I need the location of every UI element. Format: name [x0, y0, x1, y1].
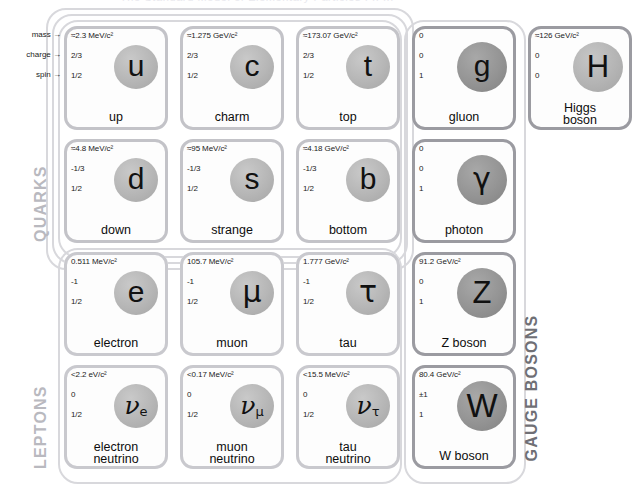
particle-name-line1: bottom — [329, 223, 367, 237]
particle-name: top — [296, 111, 400, 123]
particle-cell-z-boson[interactable]: 91.2 GeV/c²01ZZ boson — [412, 252, 516, 356]
particle-mass-value: 0 — [419, 32, 423, 49]
particle-charge-value: 0 — [187, 391, 234, 408]
particle-spin-value: 1/2 — [187, 72, 237, 89]
particle-disc: ντ — [346, 384, 390, 428]
particle-disc: Z — [457, 268, 507, 318]
particle-name-line1: Z boson — [441, 336, 486, 350]
particle-stats: <2.2 eV/c²01/2 — [71, 371, 107, 428]
particle-symbol-muon: μ — [242, 277, 261, 307]
particle-spin-value: 1/2 — [71, 411, 107, 428]
particle-name-line2: neutrino — [64, 453, 168, 465]
particle-name-line1: strange — [211, 223, 253, 237]
particle-symbol-subscript: τ — [372, 404, 380, 419]
particle-name: electronneutrino — [64, 441, 168, 465]
particle-stats: ≈4.8 MeV/c²-1/31/2 — [71, 145, 113, 202]
particle-charge-value: 0 — [419, 165, 423, 182]
particle-name-line1: photon — [445, 223, 483, 237]
particle-stats: 1.777 GeV/c²-11/2 — [303, 258, 349, 315]
annotation-charge: charge → — [26, 50, 61, 59]
particle-mass-value: ≈126 GeV/c² — [535, 32, 579, 49]
particle-charge-value: -1 — [187, 278, 233, 295]
particle-cell-muon-neutrino[interactable]: <0.17 MeV/c²01/2νμmuonneutrino — [180, 365, 284, 469]
particle-mass-value: ≈1.275 GeV/c² — [187, 32, 237, 49]
particle-name-line1: tau — [339, 336, 356, 350]
particle-cell-muon[interactable]: 105.7 MeV/c²-11/2μmuon — [180, 252, 284, 356]
particle-mass-value: ≈2.3 MeV/c² — [71, 32, 113, 49]
particle-disc: c — [230, 45, 274, 89]
particle-cell-down[interactable]: ≈4.8 MeV/c²-1/31/2ddown — [64, 139, 168, 243]
particle-name-line1: down — [101, 223, 131, 237]
particle-cell-charm[interactable]: ≈1.275 GeV/c²2/31/2ccharm — [180, 26, 284, 130]
clipped-header-strip: The Standard Model of Elementary Particl… — [0, 0, 609, 12]
particle-name: tau — [296, 337, 400, 349]
particle-stats: ≈126 GeV/c²00 — [535, 32, 579, 89]
particle-stats: ≈2.3 MeV/c²2/31/2 — [71, 32, 113, 89]
particle-stats: ≈95 MeV/c²-1/31/2 — [187, 145, 227, 202]
particle-symbol-electron-neutrino: νe — [124, 393, 147, 418]
particle-mass-value: 105.7 MeV/c² — [187, 258, 233, 275]
particle-stats: <15.5 MeV/c²01/2 — [303, 371, 350, 428]
particle-spin-value: 1/2 — [71, 72, 113, 89]
particle-disc: μ — [230, 271, 274, 315]
particle-charge-value: -1 — [303, 278, 349, 295]
particle-cell-photon[interactable]: 001γphoton — [412, 139, 516, 243]
particle-charge-value: -1/3 — [71, 165, 113, 182]
particle-mass-value: 80.4 GeV/c² — [419, 371, 461, 388]
particle-spin-value: 1/2 — [303, 185, 349, 202]
particle-symbol-bottom: b — [360, 164, 377, 194]
annotation-mass: mass → — [32, 30, 61, 39]
particle-mass-value: ≈173.07 GeV/c² — [303, 32, 358, 49]
particle-disc: t — [346, 45, 390, 89]
particle-stats: 91.2 GeV/c²01 — [419, 258, 461, 315]
particle-symbol-strange: s — [245, 164, 260, 194]
clipped-header-text: The Standard Model of Elementary Particl… — [120, 0, 394, 3]
particle-spin-value: 1/2 — [187, 298, 233, 315]
particle-cell-strange[interactable]: ≈95 MeV/c²-1/31/2sstrange — [180, 139, 284, 243]
particle-cell-gluon[interactable]: 001ggluon — [412, 26, 516, 130]
family-label-leptons-text: LEPTONS — [32, 369, 50, 469]
particle-disc: νe — [114, 384, 158, 428]
particle-cell-electron-neutrino[interactable]: <2.2 eV/c²01/2νeelectronneutrino — [64, 365, 168, 469]
particle-mass-value: ≈4.8 MeV/c² — [71, 145, 113, 162]
particle-symbol-top: t — [364, 51, 372, 81]
particle-symbol-up: u — [128, 51, 145, 81]
particle-stats: 001 — [419, 32, 423, 89]
particle-mass-value: 91.2 GeV/c² — [419, 258, 461, 275]
particle-cell-electron[interactable]: 0.511 MeV/c²-11/2eelectron — [64, 252, 168, 356]
particle-spin-value: 1 — [419, 72, 423, 89]
particle-charge-value: -1/3 — [187, 165, 227, 182]
annotation-spin: spin → — [36, 70, 61, 79]
particle-cell-bottom[interactable]: ≈4.18 GeV/c²-1/31/2bbottom — [296, 139, 400, 243]
particle-charge-value: ±1 — [419, 391, 461, 408]
particle-stats: 105.7 MeV/c²-11/2 — [187, 258, 233, 315]
particle-charge-value: -1 — [71, 278, 117, 295]
particle-spin-value: 1 — [419, 298, 461, 315]
particle-stats: 80.4 GeV/c²±11 — [419, 371, 461, 428]
particle-spin-value: 1/2 — [303, 411, 350, 428]
particle-disc: νμ — [230, 384, 274, 428]
particle-symbol-z-boson: Z — [473, 277, 492, 308]
particle-symbol-electron: e — [128, 277, 145, 307]
particle-disc: g — [457, 42, 507, 92]
particle-cell-top[interactable]: ≈173.07 GeV/c²2/31/2ttop — [296, 26, 400, 130]
particle-name-line2: neutrino — [180, 453, 284, 465]
particle-stats: ≈4.18 GeV/c²-1/31/2 — [303, 145, 349, 202]
particle-name: down — [64, 224, 168, 236]
particle-mass-value: 0 — [419, 145, 423, 162]
particle-cell-higgs[interactable]: ≈126 GeV/c²00HHiggsboson — [528, 26, 632, 130]
particle-name: muonneutrino — [180, 441, 284, 465]
particle-stats: <0.17 MeV/c²01/2 — [187, 371, 234, 428]
particle-cell-w-boson[interactable]: 80.4 GeV/c²±11WW boson — [412, 365, 516, 469]
particle-symbol-tau: τ — [359, 277, 377, 307]
particle-cell-up[interactable]: ≈2.3 MeV/c²2/31/2uup — [64, 26, 168, 130]
particle-name-line1: charm — [215, 110, 250, 124]
particle-mass-value: <0.17 MeV/c² — [187, 371, 234, 388]
particle-cell-tau-neutrino[interactable]: <15.5 MeV/c²01/2ντtauneutrino — [296, 365, 400, 469]
particle-symbol-base: ν — [240, 391, 255, 420]
particle-cell-tau[interactable]: 1.777 GeV/c²-11/2τtau — [296, 252, 400, 356]
particle-stats: ≈1.275 GeV/c²2/31/2 — [187, 32, 237, 89]
particle-disc: τ — [346, 271, 390, 315]
particle-symbol-base: ν — [356, 391, 371, 420]
particle-disc: b — [346, 158, 390, 202]
